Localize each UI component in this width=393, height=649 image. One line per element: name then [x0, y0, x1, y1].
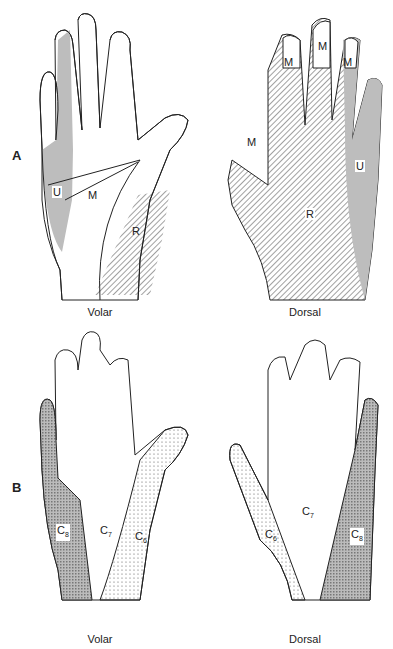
caption-a-volar: Volar	[60, 306, 140, 318]
panel-label-b: B	[12, 480, 21, 495]
label-ulnar-volar: U	[52, 186, 62, 198]
caption-a-dorsal: Dorsal	[265, 306, 345, 318]
caption-b-dorsal: Dorsal	[265, 633, 345, 645]
label-c6-dorsal: C6	[265, 528, 277, 545]
label-c7-volar: C7	[100, 524, 112, 541]
label-c8-dorsal: C8	[350, 528, 364, 545]
label-radial-dorsal: R	[305, 208, 315, 220]
caption-b-volar: Volar	[60, 633, 140, 645]
label-median-dorsal-3: M	[343, 56, 352, 68]
hand-b-dorsal	[230, 340, 378, 600]
label-median-dorsal-1: M	[284, 56, 293, 68]
label-radial-volar: R	[132, 225, 140, 237]
label-median-dorsal-thumb: M	[247, 136, 256, 148]
label-c7-dorsal: C7	[302, 505, 314, 522]
hand-diagram-canvas	[0, 0, 393, 649]
panel-label-a: A	[12, 148, 21, 163]
label-ulnar-dorsal: U	[355, 160, 365, 172]
label-c8-volar: C8	[56, 524, 70, 541]
label-median-dorsal-2: M	[318, 40, 327, 52]
hand-a-volar	[40, 14, 188, 300]
label-c6-volar: C6	[135, 530, 147, 547]
label-median-volar: M	[88, 189, 97, 201]
hand-b-volar	[40, 332, 188, 600]
